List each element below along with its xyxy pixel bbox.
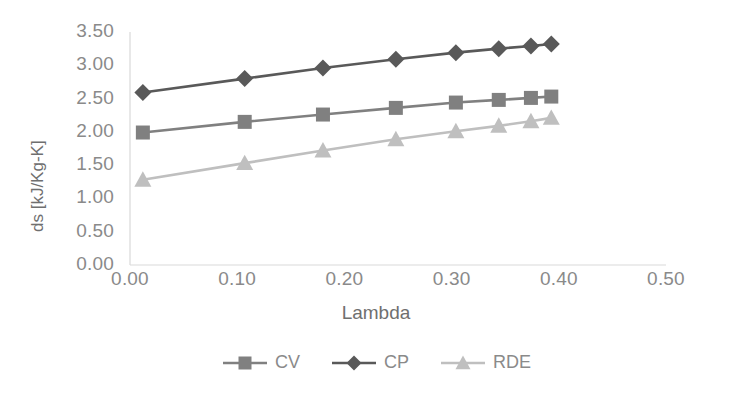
legend-swatch-triangle-icon	[439, 353, 487, 373]
data-point-marker	[449, 96, 463, 110]
data-point-marker	[543, 109, 560, 124]
legend-label: CV	[275, 352, 300, 373]
data-point-marker	[316, 108, 330, 122]
data-point-marker	[524, 91, 538, 105]
data-point-marker	[136, 126, 150, 140]
data-point-marker	[236, 70, 253, 87]
legend-label: RDE	[493, 352, 531, 373]
legend-item-rde[interactable]: RDE	[439, 352, 531, 373]
data-point-marker	[492, 93, 506, 107]
data-point-marker	[490, 40, 507, 57]
legend-swatch-diamond-icon	[330, 353, 378, 373]
data-point-marker	[238, 115, 252, 129]
data-point-marker	[544, 90, 558, 104]
legend-label: CP	[384, 352, 409, 373]
data-point-marker	[522, 37, 539, 54]
data-point-marker	[447, 44, 464, 61]
series-line	[143, 44, 551, 93]
chart-container: ds [kJ/Kg-K] Lambda 0.000.501.001.502.00…	[0, 0, 752, 397]
data-point-marker	[134, 84, 151, 101]
series-cp	[134, 35, 559, 101]
legend-item-cp[interactable]: CP	[330, 352, 409, 373]
legend-item-cv[interactable]: CV	[221, 352, 300, 373]
data-point-marker	[389, 101, 403, 115]
axis-lines	[130, 32, 666, 265]
data-point-marker	[314, 59, 331, 76]
data-series-layer	[134, 35, 559, 186]
legend-swatch-square-icon	[221, 353, 269, 373]
plot-area	[0, 0, 752, 397]
chart-legend: CVCPRDE	[0, 352, 752, 373]
series-rde	[134, 109, 559, 186]
data-point-marker	[543, 35, 560, 52]
data-point-marker	[387, 51, 404, 68]
